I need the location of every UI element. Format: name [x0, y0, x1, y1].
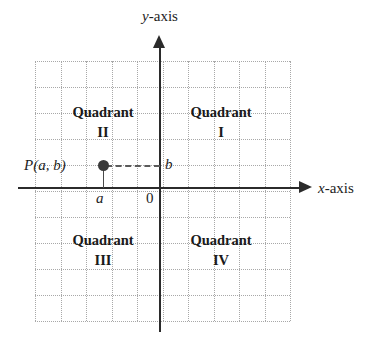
- grid-line-horizontal: [35, 191, 290, 192]
- quadrant-label-iii: Quadrant III: [48, 231, 158, 270]
- point-label-p: P(a, b): [24, 157, 66, 174]
- y-axis-label-suffix: -axis: [149, 8, 178, 24]
- coordinate-plane-figure: y-axis x-axis Quadrant I Quadrant II Qua…: [0, 0, 381, 347]
- y-coordinate-label-b: b: [165, 156, 173, 173]
- x-axis-arrowhead-icon: [299, 181, 312, 193]
- y-axis-line: [159, 47, 161, 332]
- grid-line-horizontal: [35, 165, 290, 166]
- origin-label: 0: [146, 190, 154, 207]
- quadrant-word: Quadrant: [72, 104, 133, 120]
- grid-line-horizontal: [35, 217, 290, 218]
- x-coordinate-label-a: a: [96, 190, 104, 207]
- quadrant-word: Quadrant: [190, 232, 251, 248]
- x-axis-label: x-axis: [318, 180, 354, 197]
- grid-line-vertical: [290, 61, 291, 321]
- grid-line-horizontal: [35, 61, 290, 62]
- y-axis-label: y-axis: [112, 8, 208, 25]
- quadrant-label-iv: Quadrant IV: [166, 231, 276, 270]
- quadrant-numeral: II: [48, 123, 158, 143]
- quadrant-word: Quadrant: [190, 104, 251, 120]
- y-axis-label-variable: y: [142, 8, 149, 24]
- x-axis-label-variable: x: [318, 180, 325, 196]
- quadrant-label-ii: Quadrant II: [48, 103, 158, 142]
- point-marker-p: [98, 160, 109, 171]
- quadrant-numeral: IV: [166, 251, 276, 271]
- y-axis-arrowhead-icon: [153, 35, 165, 48]
- quadrant-numeral: I: [166, 123, 276, 143]
- x-axis-label-suffix: -axis: [325, 180, 354, 196]
- grid-line-horizontal: [35, 321, 290, 322]
- quadrant-word: Quadrant: [72, 232, 133, 248]
- quadrant-label-i: Quadrant I: [166, 103, 276, 142]
- point-projection-line-horizontal: [106, 165, 160, 167]
- quadrant-numeral: III: [48, 251, 158, 271]
- grid-line-horizontal: [35, 295, 290, 296]
- coordinate-grid: [35, 61, 290, 321]
- grid-line-horizontal: [35, 87, 290, 88]
